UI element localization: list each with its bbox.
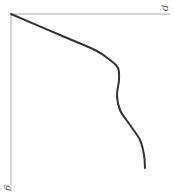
x-axis-label: p <box>161 5 171 11</box>
y-axis-label: g <box>4 185 14 191</box>
data-curve <box>11 14 145 168</box>
chart-canvas <box>0 0 174 195</box>
